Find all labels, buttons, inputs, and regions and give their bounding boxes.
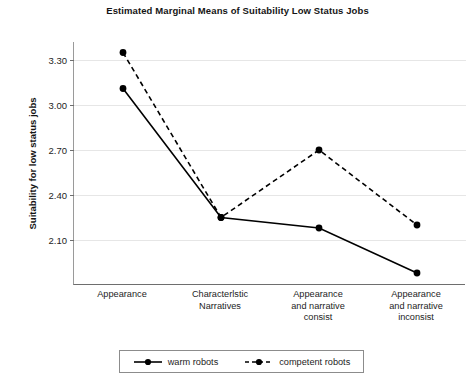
chart-title: Estimated Marginal Means of Suitability … [0,5,475,16]
series-line-competent-robots [123,53,417,226]
legend-marker-icon [244,357,274,367]
x-axis-label-line: inconsist [367,312,465,324]
data-point [316,147,323,154]
x-axis-label-line: Appearance [367,289,465,301]
x-axis-label-line: and narrative [269,301,367,313]
y-tick-label: 2.40 [49,190,68,201]
series-layer [74,42,466,285]
x-axis-label: Appearanceand narrativeinconsist [367,289,465,324]
x-axis-label-line: Narratives [171,301,269,313]
x-axis-label: CharacterlsticNarratives [171,289,269,312]
data-point [218,214,225,221]
chart-container: Estimated Marginal Means of Suitability … [0,0,475,385]
legend-entry: warm robots [133,357,219,367]
y-tick-label: 2.70 [49,145,68,156]
series-line-warm-robots [123,89,417,274]
data-point [414,270,421,277]
x-axis-label-line: Characterlstic [171,289,269,301]
legend-label: warm robots [168,357,219,367]
plot-area: 3.303.002.702.402.10 [73,42,465,285]
data-point [120,85,127,92]
data-point [120,49,127,56]
data-point [316,225,323,232]
data-point [414,222,421,229]
x-axis-labels: AppearanceCharacterlsticNarrativesAppear… [73,289,465,347]
x-axis-label: Appearance [73,289,171,301]
y-tick-label: 3.00 [49,100,68,111]
y-axis-title: Suitability for low status jobs [27,54,38,274]
x-axis-label-line: Appearance [269,289,367,301]
x-axis-label-line: consist [269,312,367,324]
legend-marker-icon [133,357,163,367]
x-axis-label-line: and narrative [367,301,465,313]
legend-label: competent robots [279,357,350,367]
y-tick-label: 2.10 [49,235,68,246]
chart-legend: warm robotscompetent robots [119,350,364,373]
y-tick-label: 3.30 [49,55,68,66]
x-axis-label-line: Appearance [73,289,171,301]
x-axis-label: Appearanceand narrativeconsist [269,289,367,324]
legend-entry: competent robots [244,357,350,367]
